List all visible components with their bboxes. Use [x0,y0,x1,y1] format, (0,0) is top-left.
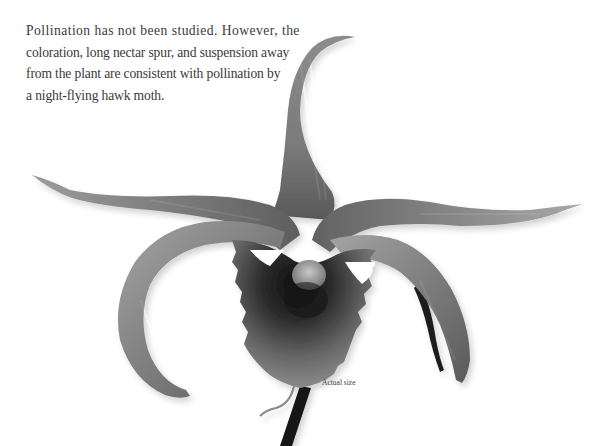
caption-line: coloration, long nectar spur, and suspen… [26,42,326,64]
caption-line: from the plant are consistent with polli… [26,63,326,85]
caption-line: a night-flying hawk moth. [26,85,326,107]
caption-text: Pollination has not been studied. Howeve… [26,20,326,106]
stem [280,386,311,446]
lip-tendril [260,386,294,416]
column-shadow [284,282,328,318]
scale-label: Actual size [322,378,356,387]
caption-line: Pollination has not been studied. Howeve… [26,20,326,42]
